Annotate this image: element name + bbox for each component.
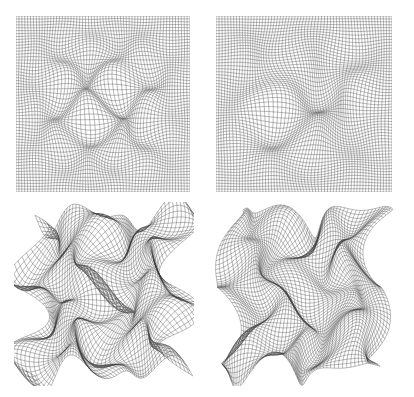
mesh-lines [14,202,194,386]
mesh-lines [16,16,190,192]
mesh-figure [0,0,414,397]
mesh-panel-bottom-right [212,202,394,386]
mesh-grid-svg [216,16,392,192]
mesh-grid-svg [14,202,194,386]
mesh-grid-svg [212,202,394,386]
mesh-panel-bottom-left [14,202,194,386]
mesh-panel-top-right [216,16,392,192]
mesh-grid-svg [16,16,190,192]
mesh-panel-top-left [16,16,190,192]
mesh-lines [216,205,393,386]
mesh-lines [216,16,392,192]
